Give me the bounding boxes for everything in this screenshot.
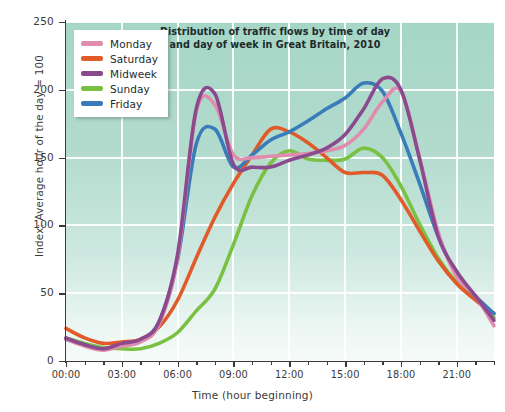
chart-figure: 050100150200250 00:0003:0006:0009:0012:0…	[0, 0, 505, 412]
y-tick	[59, 22, 65, 23]
x-tick	[475, 362, 476, 365]
x-tick-label: 03:00	[107, 369, 136, 380]
y-axis-title: Index: Average hour of the day = 100	[33, 41, 45, 271]
y-tick-label: 50	[40, 286, 54, 298]
y-tick	[59, 293, 65, 294]
legend-swatch-icon	[81, 41, 103, 46]
y-tick-label: 250	[33, 15, 54, 27]
legend-item-midweek[interactable]: Midweek	[81, 66, 158, 81]
x-tick	[420, 362, 421, 365]
x-tick	[252, 362, 253, 365]
legend-label: Monday	[110, 38, 152, 50]
chart-legend: MondaySaturdayMidweekSundayFriday	[74, 30, 168, 117]
y-tick	[59, 225, 65, 226]
y-tick	[59, 361, 65, 362]
x-axis-title: Time (hour beginning)	[0, 389, 505, 401]
chart-title-line-1: Distribution of traffic flows by time of…	[150, 26, 400, 39]
x-tick	[215, 362, 216, 365]
x-axis-line	[65, 361, 495, 362]
y-tick	[59, 90, 65, 91]
x-tick	[271, 362, 272, 365]
x-tick	[122, 362, 123, 367]
x-tick	[457, 362, 458, 367]
x-tick	[401, 362, 402, 367]
legend-swatch-icon	[81, 86, 103, 91]
x-tick-label: 06:00	[163, 369, 192, 380]
x-tick	[196, 362, 197, 365]
x-tick	[345, 362, 346, 367]
x-tick	[364, 362, 365, 365]
legend-swatch-icon	[81, 101, 103, 106]
x-tick	[494, 362, 495, 365]
legend-swatch-icon	[81, 56, 103, 61]
chart-title: Distribution of traffic flows by time of…	[150, 26, 400, 52]
legend-label: Friday	[110, 98, 142, 110]
y-tick	[59, 158, 65, 159]
chart-title-line-2: and day of week in Great Britain, 2010	[150, 39, 400, 52]
x-tick	[438, 362, 439, 365]
x-tick-label: 15:00	[331, 369, 360, 380]
x-tick-label: 00:00	[52, 369, 81, 380]
legend-label: Midweek	[110, 68, 157, 80]
x-tick	[66, 362, 67, 367]
x-tick	[289, 362, 290, 367]
y-axis-line	[65, 20, 66, 363]
legend-swatch-icon	[81, 71, 103, 76]
y-tick-label: 0	[47, 354, 54, 366]
series-line-friday	[66, 83, 494, 349]
x-tick	[85, 362, 86, 365]
legend-label: Sunday	[110, 83, 150, 95]
x-tick	[233, 362, 234, 367]
series-line-saturday	[66, 128, 494, 344]
legend-label: Saturday	[110, 53, 158, 65]
x-tick	[382, 362, 383, 365]
legend-item-monday[interactable]: Monday	[81, 36, 158, 51]
x-tick	[103, 362, 104, 365]
x-tick	[178, 362, 179, 367]
x-tick	[159, 362, 160, 365]
x-tick-label: 18:00	[387, 369, 416, 380]
x-tick-label: 21:00	[442, 369, 471, 380]
x-tick	[308, 362, 309, 365]
x-tick-label: 09:00	[219, 369, 248, 380]
x-tick-label: 12:00	[275, 369, 304, 380]
legend-item-sunday[interactable]: Sunday	[81, 81, 158, 96]
legend-item-friday[interactable]: Friday	[81, 96, 158, 111]
legend-item-saturday[interactable]: Saturday	[81, 51, 158, 66]
x-tick	[327, 362, 328, 365]
x-tick	[140, 362, 141, 365]
